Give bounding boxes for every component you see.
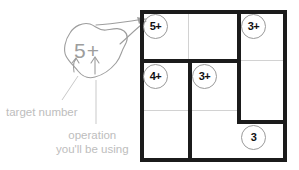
clue-5plus: 5+	[143, 14, 168, 39]
grid-border-bottom	[140, 158, 287, 162]
operation-caption: operation you'll be using	[56, 128, 129, 156]
operation-caption-line1: operation	[56, 128, 129, 142]
thin-gridline-v-c1r1	[188, 13, 189, 59]
callout-bubble-label: 5+	[57, 38, 117, 64]
grid-border-left	[140, 10, 144, 162]
clue-3plus-top-right: 3+	[241, 14, 266, 39]
illustration-canvas: 5+ target number operation you'll be usi…	[0, 0, 299, 170]
grid-border-top	[140, 10, 287, 14]
thin-gridline-h-c3r1	[239, 60, 284, 61]
thin-gridline-h-c2r2	[192, 110, 237, 111]
grid-border-right	[283, 10, 287, 162]
target-number-leader-line	[62, 76, 78, 100]
clue-3plus-middle: 3+	[192, 64, 217, 89]
kenken-grid: 5+ 3+ 4+ 3+ 3	[140, 10, 287, 162]
cage-divider-above-3	[237, 120, 287, 124]
target-number-caption: target number	[6, 105, 78, 119]
clue-4plus: 4+	[143, 64, 168, 89]
operation-caption-line2: you'll be using	[56, 142, 129, 156]
clue-3-single: 3	[241, 125, 266, 150]
thin-gridline-h-c1r2	[143, 110, 188, 111]
